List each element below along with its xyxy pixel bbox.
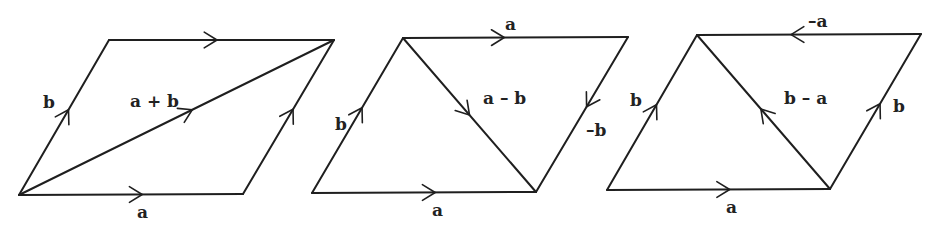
vector-diagonal-a-plus-b: a + b: [19, 40, 334, 195]
vector-label: –b: [586, 120, 607, 140]
vector-line: [697, 34, 921, 35]
vector-label: a: [137, 202, 148, 222]
vector-line: [19, 40, 334, 195]
vector-label: b: [630, 90, 642, 110]
vector-line: [607, 189, 830, 190]
vector-line: [607, 35, 697, 190]
diagram-sum: aba + b: [19, 32, 334, 222]
vector-label: a: [432, 200, 443, 220]
vector-diagonal-a-minus-b: a – b: [403, 38, 536, 192]
vector-line: [403, 37, 628, 38]
diagram-difference-b-minus-a: ab–abb – a: [607, 11, 921, 217]
vector-parallelogram-figure: aba + baba–ba – bab–abb – a: [0, 0, 937, 230]
vector-line: [312, 192, 536, 193]
vector-right-minus-b: –b: [536, 37, 628, 192]
vector-diagonal-b-minus-a: b – a: [697, 35, 830, 189]
vector-top-minus-a: –a: [697, 11, 921, 42]
vector-line: [697, 35, 830, 189]
vector-label: a + b: [130, 91, 179, 111]
vector-line: [830, 34, 921, 189]
vector-top-a: a: [403, 14, 628, 45]
vector-label: a: [726, 197, 737, 217]
vector-left-b: b: [312, 38, 403, 193]
vector-left-b: b: [607, 35, 697, 190]
vector-bottom-a: a: [607, 182, 830, 217]
vector-label: b: [43, 92, 55, 112]
vector-line: [19, 194, 243, 195]
vector-line: [312, 38, 403, 193]
diagram-root: aba + baba–ba – bab–abb – a: [19, 11, 921, 222]
diagram-difference-a-minus-b: aba–ba – b: [312, 14, 628, 220]
vector-label: –a: [808, 11, 828, 31]
vector-label: a – b: [483, 88, 526, 108]
vector-top-a: [109, 32, 334, 48]
vector-bottom-a: a: [19, 187, 243, 222]
vector-label: b: [335, 114, 347, 134]
vector-line: [536, 37, 628, 192]
vector-label: b – a: [784, 88, 827, 108]
vector-bottom-a: a: [312, 185, 536, 220]
vector-label: a: [505, 14, 516, 34]
vector-right-b: b: [830, 34, 921, 189]
vector-label: b: [893, 96, 905, 116]
